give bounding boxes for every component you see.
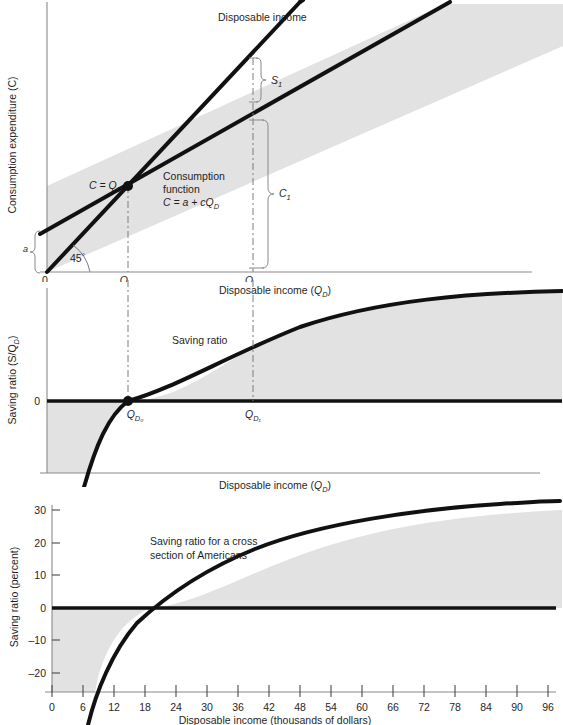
breakeven-point-marker [123, 181, 133, 191]
breakeven-sub: D [117, 185, 123, 194]
mid-ylabel-b: ) [6, 336, 18, 340]
label-americans-curve-line2: section of Americans [150, 549, 247, 561]
ytick-label-0: 30 [34, 504, 46, 516]
panel-saving-ratio: Saving ratio (S/QD) 0 Saving ratio QD₀ Q… [0, 280, 563, 487]
panel-middle-ylabel: Saving ratio (S/QD) [6, 336, 21, 425]
ytick-label-2: 10 [34, 569, 46, 581]
xtick-label-2: 12 [108, 701, 120, 713]
label-consumption-c1: C1 [279, 187, 291, 202]
label-americans-curve-line1: Saving ratio for a cross [150, 535, 257, 547]
angle-value: 45 [70, 252, 82, 264]
shaded-saving-region [47, 4, 563, 272]
line-45-degree-upper-segment [300, 0, 303, 2]
label-saving-ratio-curve: Saving ratio [172, 334, 228, 346]
xtick-label-13: 78 [449, 701, 461, 713]
xtick-label-1: 6 [80, 701, 86, 713]
xtick-label-6: 36 [232, 701, 244, 713]
label-disposable-income-line: Disposable income [218, 11, 307, 23]
xtick-label-16: 96 [542, 701, 554, 713]
xtick-label-8: 48 [294, 701, 306, 713]
xtick-label-12: 72 [418, 701, 430, 713]
xtick-label-qd1-middle: QD₁ [245, 408, 262, 423]
breakeven-c: C = Q [89, 179, 117, 191]
panel-saving-ratio-americans: Saving ratio (percent) 30 20 10 0 –10 –2… [0, 487, 563, 725]
label-consumption-function-line2: function [163, 183, 200, 195]
xtick-label-qd0-middle: QD₀ [127, 408, 144, 423]
xtick-label-0: 0 [49, 701, 55, 713]
xtick-label-4: 24 [170, 701, 182, 713]
label-intercept-a: a [23, 244, 28, 254]
x-tick-labels-bottom: 0 6 12 18 24 30 36 42 48 54 60 66 72 78 … [49, 701, 554, 713]
consumption-eq-main: C = a + cQ [163, 196, 214, 208]
s1-main: S [271, 74, 278, 86]
mid-qd0-main: Q [127, 408, 135, 420]
panel-top-ylabel: Consumption expenditure (C) [6, 76, 18, 213]
xtick-label-3: 18 [139, 701, 151, 713]
xtick-label-10: 60 [356, 701, 368, 713]
ytick-label-5: –20 [28, 667, 46, 679]
mid-qd0-sub: D₀ [135, 414, 143, 423]
xtick-label-7: 42 [263, 701, 275, 713]
xtick-label-11: 66 [387, 701, 399, 713]
panel-consumption-function: Consumption expenditure (C) Disposable i… [0, 0, 563, 282]
xtick-label-9: 54 [325, 701, 337, 713]
ytick-label-4: –10 [28, 634, 46, 646]
degree-symbol: ° [82, 252, 85, 261]
zero-crossing-marker-middle [123, 396, 133, 406]
consumption-eq-sub: D [214, 202, 220, 211]
xtick-label-14: 84 [480, 701, 492, 713]
panel-bottom-ylabel: Saving ratio (percent) [8, 547, 20, 647]
panel-bottom-xlabel: Disposable income (thousands of dollars) [179, 714, 372, 725]
xtick-label-5: 30 [201, 701, 213, 713]
economics-figure: Consumption expenditure (C) Disposable i… [0, 0, 563, 725]
mid-qd1-sub: D₁ [253, 414, 261, 423]
label-consumption-function-line1: Consumption [163, 170, 225, 182]
shaded-positive-saving-region [128, 292, 562, 401]
mid-ylabel-a: Saving ratio (S/Q [6, 344, 18, 424]
ytick-label-1: 20 [34, 537, 46, 549]
x-tick-marks-bottom [52, 685, 548, 697]
c1-sub: 1 [287, 193, 291, 202]
xtick-label-15: 90 [511, 701, 523, 713]
ytick-label-zero-middle: 0 [34, 395, 40, 407]
y-tick-labels-bottom: 30 20 10 0 –10 –20 [28, 504, 46, 679]
ytick-label-3: 0 [40, 602, 46, 614]
brace-intercept-a [30, 231, 40, 273]
mid-qd1-main: Q [245, 408, 253, 420]
s1-sub: 1 [278, 80, 282, 89]
label-angle-45: 45° [70, 252, 85, 264]
